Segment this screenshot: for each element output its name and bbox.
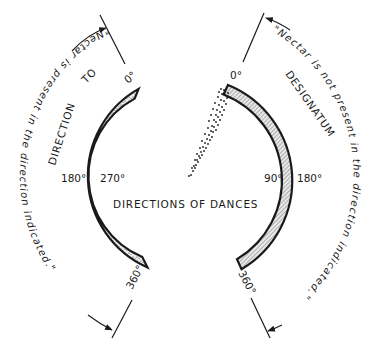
left-caption: "Nectar is present in the direction indi… xyxy=(18,25,111,274)
diagram-title: DIRECTIONS OF DANCES xyxy=(113,198,258,210)
left-caption-path: "Nectar is present in the direction indi… xyxy=(18,25,111,274)
right-degree-0: 0° xyxy=(230,69,242,81)
right-bottom-marker xyxy=(251,298,282,338)
right-degree-360: 360° xyxy=(236,268,258,296)
left-degree-360: 360° xyxy=(123,263,145,291)
left-bottom-marker xyxy=(88,300,132,338)
left-degree-0: 0° xyxy=(122,69,139,86)
left-degree-180: 180° xyxy=(61,172,86,184)
right-degree-90: 90° xyxy=(264,172,283,184)
right-degree-180: 180° xyxy=(297,172,322,184)
left-degree-270: 270° xyxy=(100,172,125,184)
left-heading-to: TO xyxy=(78,65,99,86)
left-heading-direction: DIRECTION xyxy=(45,101,77,167)
dotted-cone xyxy=(188,88,229,177)
diagram-canvas: 0° 180° 270° 360° 0° 90° 180° 360° DIREC… xyxy=(0,0,375,351)
